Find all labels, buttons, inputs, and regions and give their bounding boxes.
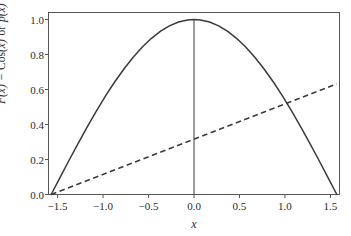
y-tick-label: 0.8 (18, 49, 44, 60)
y-tick-label: 0.2 (18, 154, 44, 165)
y-tick-label: 1.0 (18, 14, 44, 25)
chart-figure: −1.5−1.0−0.50.00.51.01.5 0.00.20.40.60.8… (0, 0, 351, 236)
y-axis-title-f-arg: (x) (0, 84, 7, 97)
x-tick-label: −0.5 (139, 201, 159, 212)
y-axis-title: F(x) = Cos(x) or p(x) (0, 3, 8, 104)
x-tick-label: −1.5 (48, 201, 68, 212)
x-tick-label: −1.0 (93, 201, 113, 212)
y-axis-title-or-text: or (0, 22, 7, 39)
y-tick-label: 0.0 (18, 189, 44, 200)
x-axis-title: x (191, 218, 196, 230)
y-axis-title-cos-arg: (x) (0, 39, 7, 52)
x-tick-label: 1.0 (278, 201, 292, 212)
x-tick-label: 0.5 (233, 201, 247, 212)
y-tick-label: 0.4 (18, 119, 44, 130)
y-axis-title-cos-name: Cos (0, 52, 7, 70)
x-tick-label: 0.0 (187, 201, 201, 212)
y-axis-title-p-symbol: p (0, 16, 7, 22)
y-axis-title-f-symbol: F (0, 97, 7, 104)
y-axis-title-p-arg: (x) (0, 3, 7, 16)
y-axis-title-equals: = (0, 70, 7, 84)
y-tick-label: 0.6 (18, 84, 44, 95)
x-tick-label: 1.5 (324, 201, 338, 212)
